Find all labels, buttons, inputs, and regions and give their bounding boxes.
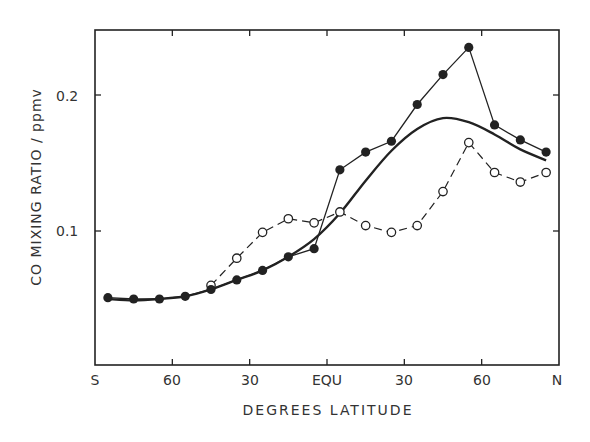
filled-circle-marker	[361, 148, 370, 157]
filled-circle-marker	[181, 292, 190, 301]
open-circle-marker	[258, 228, 266, 236]
plot-frame	[95, 30, 559, 365]
open-circle-marker	[413, 221, 421, 229]
series-open-circles	[207, 138, 551, 289]
chart-plot	[0, 0, 590, 442]
filled-circle-marker	[542, 148, 551, 157]
open-circle-marker	[336, 208, 344, 216]
x-tick-label: N	[552, 372, 562, 388]
open-circle-marker	[439, 187, 447, 195]
open-circle-marker	[542, 168, 550, 176]
filled-circle-marker	[464, 43, 473, 52]
filled-circle-marker	[103, 293, 112, 302]
filled-circle-marker	[490, 120, 499, 129]
filled-circle-marker	[335, 165, 344, 174]
y-tick-label: 0.1	[56, 223, 78, 239]
x-axis-label: DEGREES LATITUDE	[243, 402, 414, 418]
filled-circle-marker	[232, 275, 241, 284]
open-circle-marker	[516, 178, 524, 186]
open-circle-marker	[310, 219, 318, 227]
y-axis-label: CO MIXING RATIO / ppmv	[28, 88, 44, 286]
filled-circle-marker	[438, 70, 447, 79]
y-tick-label: 0.2	[56, 88, 78, 104]
open-circle-marker	[233, 254, 241, 262]
x-tick-label: 60	[473, 372, 491, 388]
x-tick-label: 60	[163, 372, 181, 388]
filled-circle-marker	[129, 294, 138, 303]
filled-circle-marker	[310, 244, 319, 253]
filled-circle-marker	[516, 135, 525, 144]
filled-circle-marker	[258, 266, 267, 275]
open-circle-marker	[387, 228, 395, 236]
filled-circle-marker	[284, 252, 293, 261]
filled-circle-marker	[387, 137, 396, 146]
filled-circle-marker	[413, 100, 422, 109]
x-tick-label: 30	[395, 372, 413, 388]
filled-series-line	[108, 47, 546, 299]
filled-circle-marker	[206, 285, 215, 294]
axis-ticks	[95, 30, 559, 365]
open-circle-marker	[284, 215, 292, 223]
x-tick-label: EQU	[312, 372, 342, 388]
open-circle-marker	[361, 221, 369, 229]
open-circle-marker	[490, 168, 498, 176]
filled-circle-marker	[155, 294, 164, 303]
x-tick-label: 30	[241, 372, 259, 388]
x-tick-label: S	[91, 372, 100, 388]
open-circle-marker	[465, 138, 473, 146]
series-filled-circles	[103, 43, 550, 304]
